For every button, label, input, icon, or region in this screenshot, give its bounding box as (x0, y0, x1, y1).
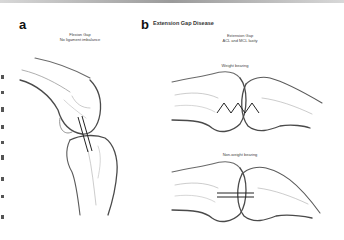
flexed-knee-illustration (20, 58, 117, 215)
femur-flexed (20, 58, 101, 134)
tibia-non-weight-bearing (238, 167, 320, 220)
tibia-weight-bearing (242, 77, 322, 130)
tibia-flexed (67, 136, 117, 215)
knee-illustrations (0, 0, 344, 240)
gap-marker-parallel-lines (217, 193, 254, 197)
femur-weight-bearing (172, 72, 246, 132)
non-weight-bearing-knee-illustration (172, 162, 320, 222)
femur-non-weight-bearing (172, 162, 246, 222)
zigzag-laxity-marker (217, 103, 259, 113)
weight-bearing-knee-illustration (172, 72, 322, 132)
